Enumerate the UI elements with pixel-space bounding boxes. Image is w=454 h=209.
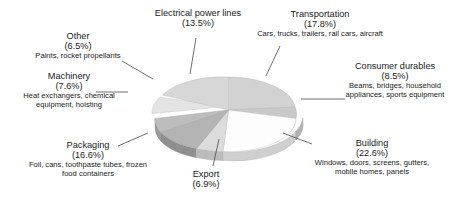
label-detail-building: Windows, doors, screens, gutters, mobile… (310, 159, 434, 176)
label-title-transportation: Transportation (252, 9, 388, 19)
label-pct-transportation: (17.8%) (252, 19, 388, 29)
pie-chart-figure: Electrical power lines (13.5%) Transport… (0, 0, 454, 209)
label-building: Building (22.6%) Windows, doors, screens… (310, 138, 434, 176)
label-other: Other (6.5%) Paints, rocket propellants (22, 31, 134, 61)
label-title-other: Other (22, 31, 134, 41)
label-pct-electrical: (13.5%) (128, 18, 268, 28)
label-pct-packaging: (16.6%) (28, 150, 148, 160)
label-title-machinery: Machinery (12, 71, 126, 81)
label-pct-machinery: (7.6%) (12, 81, 126, 91)
slice-side-consumer (296, 118, 303, 140)
label-pct-other: (6.5%) (22, 41, 134, 51)
label-transportation: Transportation (17.8%) Cars, trucks, tra… (252, 9, 388, 39)
label-pct-consumer: (8.5%) (336, 71, 454, 81)
leader-line-transportation (266, 46, 280, 76)
label-electrical-power-lines: Electrical power lines (13.5%) (128, 8, 268, 29)
label-detail-packaging: Foil, cans, toothpaste tubes, frozen foo… (28, 161, 148, 178)
label-title-building: Building (310, 138, 434, 148)
pie-top-face (152, 77, 297, 152)
label-detail-consumer: Beams, bridges, household appliances, sp… (336, 82, 454, 99)
label-title-consumer: Consumer durables (336, 61, 454, 71)
leader-line-other (122, 61, 153, 79)
label-title-export: Export (175, 169, 237, 179)
slice-transportation (229, 77, 296, 110)
label-export: Export (6.9%) (175, 169, 237, 190)
label-title-electrical: Electrical power lines (128, 8, 268, 18)
label-pct-export: (6.9%) (175, 179, 237, 189)
label-machinery: Machinery (7.6%) Heat exchangers, chemic… (12, 71, 126, 109)
label-detail-other: Paints, rocket propellants (22, 52, 134, 61)
leader-line-electrical (190, 38, 196, 74)
label-packaging: Packaging (16.6%) Foil, cans, toothpaste… (28, 140, 148, 178)
label-title-packaging: Packaging (28, 140, 148, 150)
label-consumer-durables: Consumer durables (8.5%) Beams, bridges,… (336, 61, 454, 99)
label-detail-transportation: Cars, trucks, trailers, rail cars, aircr… (252, 30, 388, 39)
label-detail-machinery: Heat exchangers, chemical equipment, hoi… (12, 92, 126, 109)
label-pct-building: (22.6%) (310, 148, 434, 158)
